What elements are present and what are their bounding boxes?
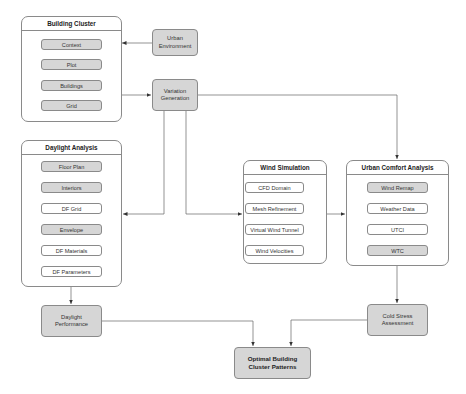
node-df-grid[interactable]: DF Grid: [41, 203, 102, 214]
block-urban-environment[interactable]: Urban Environment: [152, 29, 198, 56]
node-cfd-domain[interactable]: CFD Domain: [245, 182, 304, 193]
node-envelope[interactable]: Envelope: [41, 224, 102, 235]
panel-title: Urban Comfort Analysis: [347, 161, 448, 175]
node-grid[interactable]: Grid: [41, 100, 102, 111]
block-daylight-performance[interactable]: Daylight Performance: [41, 305, 102, 337]
node-buildings[interactable]: Buildings: [41, 80, 102, 91]
node-context[interactable]: Context: [41, 39, 102, 50]
node-wind-velocities[interactable]: Wind Velocities: [245, 245, 304, 256]
block-optimal-building-cluster-patterns[interactable]: Optimal Building Cluster Patterns: [234, 347, 311, 379]
node-df-parameters[interactable]: DF Parameters: [41, 266, 102, 277]
node-wtc[interactable]: WTC: [367, 245, 428, 256]
block-variation-generation[interactable]: Variation Generation: [152, 79, 198, 111]
panel-title: Daylight Analysis: [22, 141, 121, 155]
node-plot[interactable]: Plot: [41, 59, 102, 70]
node-floor-plan[interactable]: Floor Plan: [41, 161, 102, 172]
node-df-materials[interactable]: DF Materials: [41, 245, 102, 256]
node-weather-data[interactable]: Weather Data: [367, 203, 428, 214]
node-interiors[interactable]: Interiors: [41, 182, 102, 193]
node-wind-remap[interactable]: Wind Remap: [367, 182, 428, 193]
node-virtual-wind-tunnel[interactable]: Virtual Wind Tunnel: [245, 224, 304, 235]
node-mesh-refinement[interactable]: Mesh Refinement: [245, 203, 304, 214]
node-utci[interactable]: UTCI: [367, 224, 428, 235]
block-cold-stress-assessment[interactable]: Cold Stress Assessment: [367, 304, 428, 336]
panel-title: Wind Simulation: [244, 161, 326, 175]
panel-title: Building Cluster: [22, 17, 121, 31]
